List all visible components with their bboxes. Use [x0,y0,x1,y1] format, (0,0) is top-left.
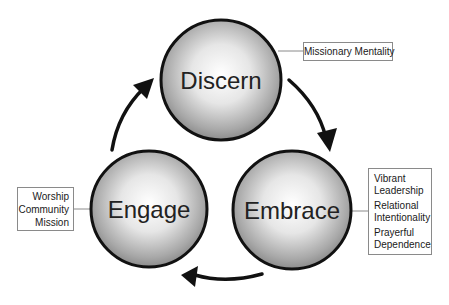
node-embrace-label: Embrace [244,197,340,224]
node-discern: Discern [161,20,281,140]
arrow-discern-to-embrace [289,80,337,152]
callout-discern: Missionary Mentality [303,42,393,61]
callout-embrace-item: Relational Intentionality [374,200,428,223]
arrowhead-icon [181,266,198,287]
callout-embrace: Vibrant Leadership Relational Intentiona… [368,168,432,255]
node-engage-label: Engage [108,196,191,223]
callout-engage-item: Community [18,203,69,216]
callout-engage: Worship Community Mission [17,187,74,231]
callout-embrace-item: Prayerful Dependence [374,227,428,250]
arrowhead-icon [317,128,337,152]
node-discern-label: Discern [180,67,261,94]
arrow-embrace-to-engage [181,266,262,287]
arrow-engage-to-discern [112,78,154,150]
callout-engage-item: Worship [18,190,69,203]
node-engage: Engage [91,151,207,267]
callout-discern-text: Missionary Mentality [304,46,395,57]
callout-engage-item: Mission [18,216,69,229]
callout-embrace-item: Vibrant Leadership [374,173,428,196]
node-embrace: Embrace [233,151,351,269]
